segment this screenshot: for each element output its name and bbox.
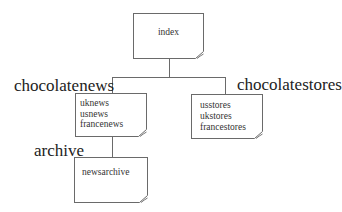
page-node-chocolatenews: uknews usnews francenews [75, 93, 147, 137]
page-list-chocolatenews: uknews usnews francenews [80, 98, 123, 130]
page-label-index: index [134, 27, 203, 38]
page-item: ukstores [200, 111, 246, 122]
page-item: usstores [200, 100, 246, 111]
page-item: uknews [80, 98, 123, 109]
connector-horizontal-branch [112, 77, 226, 78]
page-list-chocolatestores: usstores ukstores francestores [200, 100, 246, 133]
site-structure-diagram: index chocolatenews uknews usnews france… [0, 0, 342, 212]
group-label-chocolatenews: chocolatenews [14, 77, 114, 94]
page-list-archive: newsarchive [82, 167, 129, 178]
page-node-chocolatestores: usstores ukstores francestores [191, 94, 263, 139]
page-item: francestores [200, 122, 246, 133]
page-item: usnews [80, 109, 123, 120]
group-label-chocolatestores: chocolatestores [237, 76, 342, 93]
connector-news-to-archive [112, 136, 113, 157]
page-node-index: index [133, 13, 204, 59]
page-fold-icon [139, 195, 148, 203]
page-fold-icon [254, 131, 263, 139]
page-fold-icon [195, 51, 204, 59]
connector-to-chocolatestores [225, 77, 226, 94]
connector-index-down [169, 58, 170, 77]
page-node-archive: newsarchive [74, 157, 148, 203]
page-item: francenews [80, 119, 123, 130]
index-label: index [134, 27, 203, 38]
page-item: newsarchive [82, 167, 129, 178]
page-fold-icon [138, 129, 147, 137]
